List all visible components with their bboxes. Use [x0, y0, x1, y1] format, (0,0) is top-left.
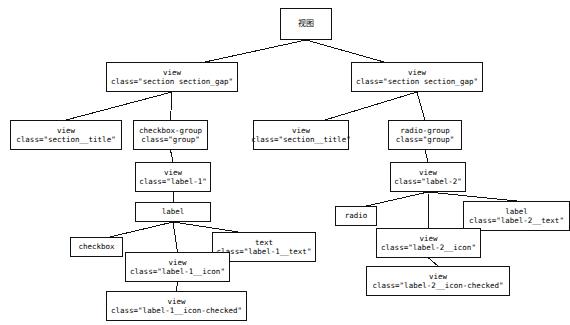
node-tag-label: 视图 [298, 19, 314, 29]
node-tag-label: view [164, 168, 182, 177]
tree-node-icon-1-checked[interactable]: viewclass="label-1__icon-checked" [106, 291, 247, 321]
tree-node-radio[interactable]: radio [335, 206, 377, 226]
edge-icon-1-to-icon-1-checked [177, 282, 178, 291]
edge-root-to-sec-left [205, 40, 306, 62]
tree-node-icon-2-checked[interactable]: viewclass="label-2__icon-checked" [366, 266, 510, 296]
node-tag-label: text [255, 238, 273, 247]
edge-sec-right-to-title-right [325, 92, 417, 120]
edge-checkbox-group-to-label-1 [171, 150, 174, 162]
node-tag-label: checkbox [78, 242, 114, 251]
tree-node-root[interactable]: 视图 [280, 8, 332, 40]
node-tag-label: view [429, 272, 447, 281]
edge-label-to-icon-1 [173, 222, 178, 252]
tree-node-radio-group[interactable]: radio-groupclass="group" [388, 120, 462, 150]
node-class-label: class="section section_gap" [111, 77, 233, 86]
edge-icon-2-to-icon-2-checked [429, 258, 439, 266]
tree-node-label-2[interactable]: viewclass="label-2" [390, 162, 466, 192]
edge-label-2-to-icon-2 [428, 192, 429, 228]
node-class-label: class="label-2__text" [469, 216, 564, 225]
node-class-label: class="section__title" [16, 135, 115, 144]
tree-node-sec-right[interactable]: viewclass="section section_gap" [351, 62, 483, 92]
node-class-label: class="label-2__icon" [381, 243, 476, 252]
node-class-label: class="label-1__icon" [130, 267, 225, 276]
tree-node-label-1[interactable]: viewclass="label-1" [135, 162, 211, 192]
edge-label-to-text-1 [173, 222, 238, 232]
tree-node-icon-2[interactable]: viewclass="label-2__icon" [376, 228, 481, 258]
tree-node-label[interactable]: label [135, 202, 211, 222]
tree-node-title-left[interactable]: viewclass="section__title" [10, 120, 122, 150]
node-tag-label: view [408, 68, 426, 77]
node-tag-label: view [419, 168, 437, 177]
tree-node-title-right[interactable]: viewclass="section__title" [253, 120, 349, 150]
node-tag-label: view [419, 234, 437, 243]
tree-node-icon-1[interactable]: viewclass="label-1__icon" [125, 252, 230, 282]
node-tag-label: radio [345, 211, 368, 220]
tree-node-sec-left[interactable]: viewclass="section section_gap" [106, 62, 238, 92]
node-tag-label: checkbox-group [139, 126, 202, 135]
edge-sec-left-to-title-left [66, 92, 172, 120]
edge-sec-right-to-radio-group [417, 92, 425, 120]
node-tag-label: view [292, 126, 310, 135]
node-tag-label: view [167, 297, 185, 306]
node-tag-label: view [57, 126, 75, 135]
node-class-label: class="label-2__icon-checked" [373, 281, 504, 290]
edge-radio-group-to-label-2 [425, 150, 428, 162]
edge-root-to-sec-right [306, 40, 384, 62]
edge-label-2-to-radio [367, 192, 429, 206]
node-class-label: class="section section_gap" [356, 77, 478, 86]
edge-label-2-to-text-2 [428, 192, 517, 201]
edge-label-to-checkbox [110, 222, 173, 237]
node-tag-label: label [162, 207, 185, 216]
node-tag-label: radio-group [400, 126, 450, 135]
node-class-label: class="group" [141, 135, 200, 144]
node-class-label: class="group" [396, 135, 455, 144]
node-class-label: class="label-1__text" [217, 247, 312, 256]
tree-node-checkbox[interactable]: checkbox [70, 237, 123, 257]
node-class-label: class="label-1" [139, 177, 207, 186]
node-class-label: class="section__title" [251, 135, 350, 144]
node-tag-label: view [168, 258, 186, 267]
node-tag-label: label [505, 207, 528, 216]
tree-node-text-2[interactable]: labelclass="label-2__text" [463, 201, 570, 231]
edge-sec-left-to-checkbox-group [171, 92, 173, 120]
node-tag-label: view [163, 68, 181, 77]
node-class-label: class="label-1__icon-checked" [111, 306, 242, 315]
tree-node-checkbox-group[interactable]: checkbox-groupclass="group" [133, 120, 208, 150]
node-class-label: class="label-2" [394, 177, 462, 186]
